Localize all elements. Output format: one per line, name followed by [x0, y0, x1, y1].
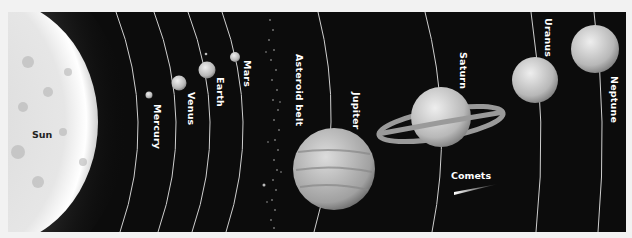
- saturn-label: Saturn: [458, 52, 469, 89]
- mercury-label: Mercury: [152, 104, 163, 149]
- earth-label: Earth: [215, 77, 226, 107]
- mars-label: Mars: [242, 60, 253, 87]
- earth-icon: [199, 62, 216, 79]
- venus-icon: [172, 76, 187, 91]
- venus-label: Venus: [186, 92, 197, 125]
- neptune-icon: [571, 25, 619, 73]
- diagram-graphics: [8, 12, 626, 232]
- asteroid-belt-icon: [263, 19, 282, 229]
- comets-label: Comets: [451, 170, 491, 181]
- jupiter-label: Jupiter: [351, 92, 362, 129]
- comet-icon: [454, 184, 498, 195]
- uranus-label: Uranus: [543, 18, 554, 57]
- neptune-label: Neptune: [609, 76, 620, 123]
- sun-label: Sun: [32, 129, 52, 140]
- mars-icon: [230, 52, 240, 62]
- uranus-icon: [512, 57, 558, 103]
- solar-system-diagram: Sun Mercury Venus Earth Mars Asteroid be…: [8, 12, 626, 232]
- mercury-icon: [146, 92, 153, 99]
- asteroid-belt-label: Asteroid belt: [294, 54, 305, 126]
- moon-icon: [205, 53, 208, 56]
